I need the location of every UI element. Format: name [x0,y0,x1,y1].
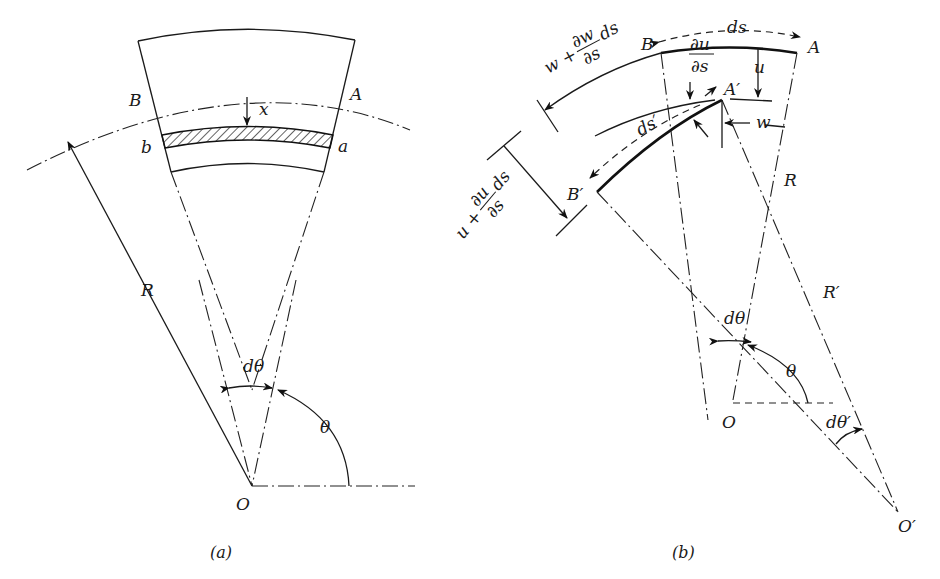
block-inner-arc [171,164,324,173]
theta-arc [278,390,349,486]
panel-a: B A x b a R dθ θ O (a) [27,29,415,562]
label-B-prime: B′ [566,184,583,204]
label-x: x [259,99,269,119]
label-R-prime: R′ [822,282,840,302]
radial-A-to-O [733,53,797,400]
theta-arc-b [748,345,808,403]
label-a: a [338,136,348,156]
label-O: O [722,412,736,432]
label-B: B [128,90,142,110]
block-outer-arc [138,29,355,41]
label-R: R [140,280,154,300]
element-BA [661,48,797,54]
svg-text:w +: w + [540,44,580,78]
svg-text:u +: u + [451,206,486,242]
figure-canvas: B A x b a R dθ θ O (a) [0,0,940,579]
label-A-prime: A′ [722,79,740,99]
ray-right-to-O [252,280,296,486]
panel-b: B A ds w + ∂w ∂s ds ∂u ∂s u A′ w ds′ B′ … [443,12,916,562]
radial-A-prime-to-O-prime [722,100,898,512]
rotation-arrow [694,120,708,137]
caption-b: (b) [672,543,695,562]
u-plus-du-arrow [504,146,567,218]
label-u: u [754,57,765,77]
label-w: w [756,112,771,132]
label-dtheta: dθ [243,356,264,376]
label-O: O [236,494,250,514]
u-plus-du-tick-bottom [556,205,587,236]
label-O-prime: O′ [898,516,916,536]
label-ds-prime: ds′ [632,111,662,140]
label-A: A [348,84,362,104]
label-B: B [640,34,654,54]
dtheta-arrow-b [718,341,751,342]
label-theta: θ [786,361,796,381]
hatched-fiber-ab [162,127,333,149]
label-R: R [783,170,797,190]
svg-text:ds: ds [486,166,514,194]
ray-left-to-O [199,280,252,486]
caption-a: (a) [210,543,232,562]
thin-arc-A-prime-right [730,99,772,101]
label-w-plus-dw-ds: w + ∂w ∂s ds [536,12,629,87]
label-b: b [141,137,152,157]
label-u-plus-du-ds: u + ∂u ∂s ds [443,162,525,249]
radial-B-to-O [661,53,708,420]
u-plus-du-tick-top [487,131,521,160]
label-theta: θ [320,417,330,437]
radial-B-prime-to-O-prime [597,192,898,512]
label-A: A [806,37,820,57]
label-ds: ds [727,17,747,37]
element-A-prime-B-prime [597,100,722,192]
label-du-ds: ∂u ∂s [689,34,714,76]
svg-text:∂u: ∂u [690,34,710,54]
w-plus-tick [537,100,558,132]
du-ds-arrow-right [705,87,716,96]
radius-arrow-R [68,142,252,486]
label-dtheta: dθ [724,308,745,328]
svg-text:∂s: ∂s [691,56,709,76]
label-dtheta-prime: dθ′ [826,412,851,432]
